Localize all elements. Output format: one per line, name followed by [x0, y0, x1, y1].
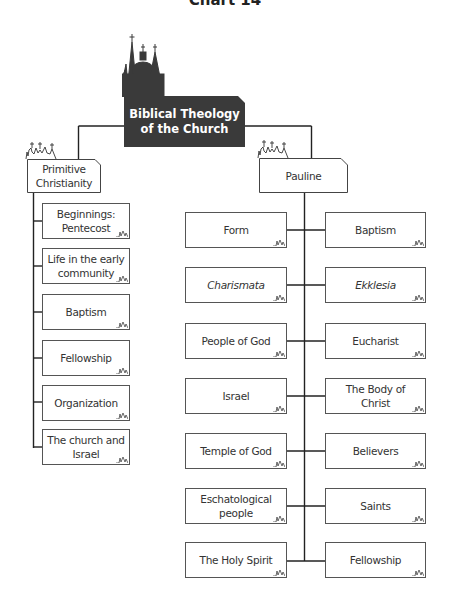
primitive-item-church-israel: The church andIsrael: [42, 429, 130, 465]
primitive-item-baptism: Baptism: [42, 294, 130, 330]
pauline-left-item-charismata: Charismata: [185, 267, 287, 303]
church-mini-icon: [412, 460, 424, 467]
church-mini-icon: [116, 275, 128, 282]
church-mini-icon: [273, 405, 285, 412]
pauline-left-item-israel: Israel: [185, 378, 287, 414]
pauline-right-item-fellowship: Fellowship: [325, 542, 426, 578]
branch-primitive-christianity: Primitive Christianity: [27, 159, 101, 193]
church-mini-icon: [412, 294, 424, 301]
primitive-item-fellowship: Fellowship: [42, 340, 130, 376]
church-mini-icon: [412, 405, 424, 412]
church-mini-icon: [412, 515, 424, 522]
church-mini-icon: [273, 350, 285, 357]
pauline-right-item-ekklesia: Ekklesia: [325, 267, 426, 303]
primitive-label-line2: Christianity: [36, 176, 92, 190]
church-mini-icon: [116, 321, 128, 328]
pauline-right-item-believers: Believers: [325, 433, 426, 469]
church-mini-icon: [273, 515, 285, 522]
church-mini-icon: [116, 456, 128, 463]
church-silhouette-icon: [122, 34, 174, 97]
church-mini-icon: [116, 230, 128, 237]
pauline-right-item-saints: Saints: [325, 488, 426, 524]
pauline-label: Pauline: [259, 158, 348, 193]
church-mini-icon: [273, 294, 285, 301]
root-label-line1: Biblical Theology: [129, 107, 240, 122]
church-mini-icon: [273, 569, 285, 576]
pauline-left-item-eschatological-people: Eschatologicalpeople: [185, 488, 287, 524]
branch-pauline: Pauline: [259, 158, 348, 193]
pauline-right-item-baptism: Baptism: [325, 212, 426, 248]
pauline-right-item-body-of-christ: The Body ofChrist: [325, 378, 426, 414]
church-mini-icon: [116, 367, 128, 374]
root-node: Biblical Theology of the Church: [124, 96, 245, 147]
root-label-line2: of the Church: [129, 122, 240, 137]
primitive-label-line1: Primitive: [36, 162, 92, 176]
pauline-right-item-eucharist: Eucharist: [325, 323, 426, 359]
church-small-icon: [257, 138, 293, 159]
church-mini-icon: [412, 569, 424, 576]
church-mini-icon: [273, 239, 285, 246]
church-mini-icon: [116, 412, 128, 419]
church-mini-icon: [412, 350, 424, 357]
pauline-left-item-temple-of-god: Temple of God: [185, 433, 287, 469]
pauline-left-item-people-of-god: People of God: [185, 323, 287, 359]
primitive-item-life: Life in the earlycommunity: [42, 248, 130, 284]
church-mini-icon: [273, 460, 285, 467]
pauline-left-item-form: Form: [185, 212, 287, 248]
primitive-item-organization: Organization: [42, 385, 130, 421]
primitive-item-beginnings: Beginnings:Pentecost: [42, 203, 130, 239]
church-mini-icon: [412, 239, 424, 246]
pauline-left-item-holy-spirit: The Holy Spirit: [185, 542, 287, 578]
church-small-icon: [25, 140, 61, 160]
